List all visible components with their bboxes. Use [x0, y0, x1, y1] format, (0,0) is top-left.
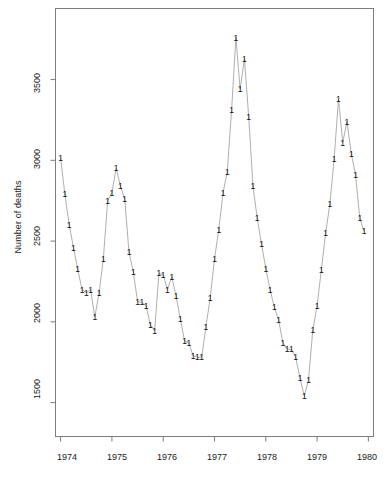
data-point-marker: 1: [255, 213, 260, 223]
data-point-marker: 1: [328, 199, 333, 209]
data-point-marker: 1: [75, 264, 80, 274]
data-point-marker: 1: [152, 326, 157, 336]
data-point-marker: 1: [349, 149, 354, 159]
data-point-marker: 1: [336, 94, 341, 104]
data-point-marker: 1: [118, 181, 123, 191]
data-point-marker: 1: [340, 138, 345, 148]
data-point-marker: 1: [174, 291, 179, 301]
data-point-marker: 1: [298, 373, 303, 383]
data-point-marker: 1: [127, 247, 132, 257]
data-point-marker: 1: [67, 220, 72, 230]
data-point-marker: 1: [114, 163, 119, 173]
data-point-marker: 1: [165, 285, 170, 295]
series-line: [61, 38, 364, 397]
data-point-marker: 1: [276, 315, 281, 325]
data-point-marker: 1: [238, 84, 243, 94]
data-point-marker: 1: [345, 117, 350, 127]
data-point-marker: 1: [110, 188, 115, 198]
y-axis-ticks: [51, 80, 56, 403]
data-point-marker: 1: [88, 285, 93, 295]
data-point-marker: 1: [169, 272, 174, 282]
data-point-marker: 1: [310, 325, 315, 335]
data-point-marker: 1: [221, 188, 226, 198]
data-point-marker: 1: [178, 314, 183, 324]
plot-canvas: 1111111111111111111111111111111111111111…: [0, 0, 391, 478]
data-point-marker: 1: [101, 254, 106, 264]
data-point-marker: 1: [293, 352, 298, 362]
data-point-marker: 1: [362, 226, 367, 236]
data-point-marker: 1: [225, 167, 230, 177]
data-point-marker: 1: [272, 302, 277, 312]
data-point-marker: 1: [58, 153, 63, 163]
data-point-marker: 1: [92, 312, 97, 322]
data-point-marker: 1: [259, 239, 264, 249]
data-point-marker: 1: [216, 225, 221, 235]
data-point-marker: 1: [302, 391, 307, 401]
data-point-marker: 1: [161, 270, 166, 280]
data-point-marker: 1: [63, 189, 68, 199]
data-point-marker: 1: [263, 264, 268, 274]
plot-frame: [56, 9, 374, 437]
series-markers: 1111111111111111111111111111111111111111…: [58, 33, 366, 402]
data-point-marker: 1: [315, 301, 320, 311]
data-point-marker: 1: [323, 228, 328, 238]
data-point-marker: 1: [186, 338, 191, 348]
data-point-marker: 1: [199, 352, 204, 362]
data-point-marker: 1: [332, 154, 337, 164]
data-point-marker: 1: [251, 181, 256, 191]
x-axis-ticks: [61, 437, 369, 442]
data-point-marker: 1: [319, 265, 324, 275]
data-point-marker: 1: [204, 322, 209, 332]
data-point-marker: 1: [212, 254, 217, 264]
data-point-marker: 1: [131, 267, 136, 277]
data-point-marker: 1: [208, 293, 213, 303]
data-point-marker: 1: [234, 33, 239, 43]
chart-root: Number of deaths 1500 2000 2500 3000 350…: [0, 0, 391, 478]
data-point-marker: 1: [242, 54, 247, 64]
data-point-marker: 1: [268, 285, 273, 295]
data-point-marker: 1: [144, 301, 149, 311]
data-point-marker: 1: [306, 375, 311, 385]
data-point-marker: 1: [71, 243, 76, 253]
data-point-marker: 1: [122, 194, 127, 204]
data-point-marker: 1: [246, 112, 251, 122]
data-point-marker: 1: [97, 288, 102, 298]
data-point-marker: 1: [357, 213, 362, 223]
data-point-marker: 1: [353, 170, 358, 180]
data-point-marker: 1: [229, 105, 234, 115]
